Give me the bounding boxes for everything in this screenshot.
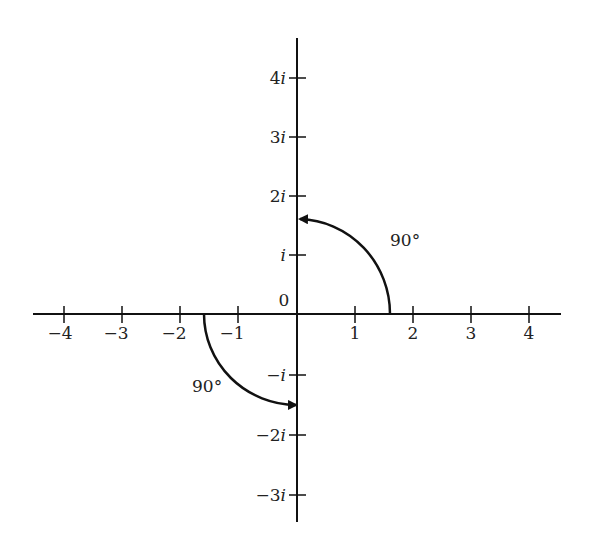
svg-text:4i: 4i <box>270 68 286 88</box>
rotation-arc-upper <box>300 219 390 314</box>
svg-text:−3i: −3i <box>256 485 287 505</box>
svg-text:i: i <box>281 245 286 265</box>
complex-plane-diagram: −4 −3 −2 −1 1 2 3 4 0 4i 3i 2i i −i −2i … <box>0 0 593 555</box>
angle-label-upper: 90° <box>390 230 420 250</box>
origin-label: 0 <box>279 290 290 310</box>
angle-label-lower: 90° <box>192 376 222 396</box>
svg-text:3i: 3i <box>270 127 286 147</box>
svg-text:−2i: −2i <box>256 425 287 445</box>
x-label: 3 <box>466 323 477 343</box>
x-label: −4 <box>47 323 72 343</box>
x-label: 2 <box>408 323 419 343</box>
x-tick-labels: −4 −3 −2 −1 1 2 3 4 <box>47 323 534 343</box>
x-label: −2 <box>161 323 186 343</box>
svg-text:−i: −i <box>266 365 286 385</box>
x-label: −3 <box>103 323 128 343</box>
svg-text:2i: 2i <box>270 186 286 206</box>
x-label: 1 <box>350 323 361 343</box>
y-tick-labels: 4i 3i 2i i −i −2i −3i <box>256 68 287 505</box>
x-label: −1 <box>219 323 244 343</box>
x-label: 4 <box>524 323 535 343</box>
